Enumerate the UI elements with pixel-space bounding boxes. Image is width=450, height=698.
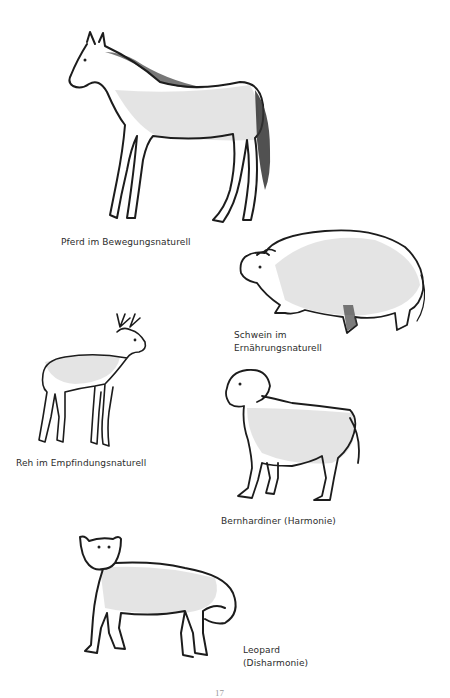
dog-drawing-icon (222, 368, 367, 508)
pig-caption: Schwein im Ernährungsnaturell (234, 329, 322, 355)
leopard-figure (75, 533, 255, 668)
horse-caption: Pferd im Bewegungsnaturell (61, 236, 191, 249)
pig-figure (235, 225, 430, 340)
deer-drawing-icon (35, 312, 160, 452)
leopard-caption-line1: Leopard (243, 644, 308, 657)
dog-caption: Bernhardiner (Harmonie) (221, 515, 336, 528)
horse-drawing-icon (65, 30, 285, 230)
horse-figure (65, 30, 285, 230)
dog-figure (222, 368, 367, 508)
page-number: 17 (215, 688, 224, 698)
pig-caption-line2: Ernährungsnaturell (234, 342, 322, 355)
deer-figure (35, 312, 160, 452)
deer-caption: Reh im Empfindungsnaturell (16, 457, 146, 470)
pig-drawing-icon (235, 225, 430, 340)
pig-caption-line1: Schwein im (234, 329, 322, 342)
leopard-caption: Leopard (Disharmonie) (243, 644, 308, 670)
leopard-drawing-icon (75, 533, 255, 668)
leopard-caption-line2: (Disharmonie) (243, 657, 308, 670)
